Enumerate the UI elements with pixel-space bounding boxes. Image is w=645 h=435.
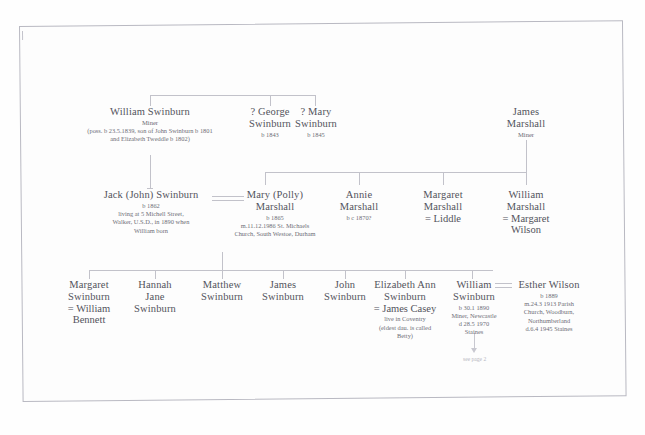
- spouse-margaret-marshall: = Liddle: [405, 213, 481, 225]
- name-hannah-jane-line1: Hannah: [122, 279, 188, 291]
- name-mary-polly-line1: Mary (Polly): [225, 189, 325, 201]
- name-margaret-marshall-line2: Marshall: [405, 201, 481, 213]
- sibling-bar-gen3: [89, 270, 493, 271]
- details-william-jr: b 30.1 1890 Miner, Newcastle d 28.5 1970…: [443, 304, 505, 337]
- node-esther-wilson: Esther Wilson b 1889 m.24.3 1913 Parish …: [505, 279, 593, 333]
- drop-mary-polly: [265, 172, 266, 185]
- paper-corner-tick: [22, 31, 23, 40]
- name-annie-line1: Annie: [326, 189, 392, 201]
- details-william-swinburn-sr: (poss. b 23.5.1839, son of John Swinburn…: [85, 127, 215, 144]
- node-hannah-jane-swinburn: Hannah Jane Swinburn: [122, 279, 188, 314]
- drop-margaret-marshall: [443, 172, 444, 185]
- node-matthew-swinburn: Matthew Swinburn: [188, 279, 256, 303]
- page2-arrow-head: [471, 348, 477, 353]
- drop-hannah-jane: [155, 270, 156, 279]
- drop-matthew: [222, 270, 223, 279]
- name-mary-polly-line2: Marshall: [225, 201, 325, 213]
- name-elizabeth-ann-line2: Swinburn: [364, 291, 446, 303]
- see-page-2-label: see page 2: [463, 356, 486, 362]
- drop-margaret-swinburn: [89, 270, 90, 279]
- drop-elizabeth-ann: [405, 270, 406, 279]
- name-elizabeth-ann-line1: Elizabeth Ann: [364, 279, 446, 291]
- occupation-james-marshall: Miner: [488, 131, 564, 138]
- drop-annie: [359, 172, 360, 185]
- node-james-swinburn: James Swinburn: [250, 279, 316, 303]
- occupation-william-swinburn-sr: Miner: [85, 119, 215, 126]
- sibling-bar-gen1-swinburn: [150, 95, 315, 96]
- node-mary-swinburn: ? Mary Swinburn b 1845: [278, 106, 354, 139]
- drop-william-jr: [472, 270, 473, 279]
- name-james-marshall-line1: James: [488, 106, 564, 118]
- name-mary-swinburn-line2: Swinburn: [278, 118, 354, 130]
- name-james-swinburn-line2: Swinburn: [250, 291, 316, 303]
- drop-william-marshall: [526, 172, 527, 185]
- name-james-swinburn-line1: James: [250, 279, 316, 291]
- name-esther-wilson: Esther Wilson: [505, 279, 593, 291]
- node-william-swinburn-sr: William Swinburn Miner (poss. b 23.5.183…: [85, 106, 215, 144]
- details-elizabeth-ann: live in Coventry (eldest dau. is called …: [364, 315, 446, 340]
- spouse-william-marshall-line2: Wilson: [488, 224, 564, 236]
- node-james-marshall: James Marshall Miner: [488, 106, 564, 138]
- line-james-marshall-down: [526, 140, 527, 172]
- line-jack-mary-to-children: [222, 252, 223, 270]
- name-william-marshall-line1: William: [488, 189, 564, 201]
- node-william-marshall: William Marshall = Margaret Wilson: [488, 189, 564, 236]
- node-mary-polly-marshall: Mary (Polly) Marshall b 1865 m.11.12.198…: [225, 189, 325, 238]
- name-william-swinburn-sr: William Swinburn: [85, 106, 215, 118]
- name-margaret-swinburn-line2: Swinburn: [54, 291, 124, 303]
- node-margaret-marshall: Margaret Marshall = Liddle: [405, 189, 481, 224]
- name-margaret-marshall-line1: Margaret: [405, 189, 481, 201]
- name-hannah-jane-line2: Jane: [122, 291, 188, 303]
- line-william-sr-to-jack: [150, 155, 151, 188]
- spouse-margaret-swinburn-line2: Bennett: [54, 314, 124, 326]
- name-william-marshall-line2: Marshall: [488, 201, 564, 213]
- spouse-margaret-swinburn-line1: = William: [54, 303, 124, 315]
- details-mary-polly: b 1865 m.11.12.1986 St. Michaels Church,…: [211, 214, 339, 239]
- drop-mary: [315, 95, 316, 106]
- node-william-swinburn-jr: William Swinburn b 30.1 1890 Miner, Newc…: [443, 279, 505, 337]
- name-james-marshall-line2: Marshall: [488, 118, 564, 130]
- name-william-jr-line1: William: [443, 279, 505, 291]
- drop-james-swinburn: [283, 270, 284, 279]
- name-hannah-jane-line3: Swinburn: [122, 303, 188, 315]
- node-elizabeth-ann-swinburn: Elizabeth Ann Swinburn = James Casey liv…: [364, 279, 446, 340]
- details-mary-swinburn: b 1845: [278, 131, 354, 139]
- name-jack-john-swinburn: Jack (John) Swinburn: [76, 189, 226, 201]
- node-margaret-swinburn: Margaret Swinburn = William Bennett: [54, 279, 124, 326]
- sibling-bar-marshall-children: [265, 172, 527, 173]
- details-annie: b c 1870?: [326, 214, 392, 222]
- spouse-elizabeth-ann: = James Casey: [364, 303, 446, 315]
- details-esther-wilson: b 1889 m.24.3 1913 Parish Church, Woodbu…: [505, 292, 593, 334]
- name-mary-swinburn-line1: ? Mary: [278, 106, 354, 118]
- name-matthew-line1: Matthew: [188, 279, 256, 291]
- spouse-william-marshall-line1: = Margaret: [488, 213, 564, 225]
- node-annie-marshall: Annie Marshall b c 1870?: [326, 189, 392, 222]
- name-william-jr-line2: Swinburn: [443, 291, 505, 303]
- drop-william-sr: [150, 95, 151, 106]
- name-annie-line2: Marshall: [326, 201, 392, 213]
- details-jack-john-swinburn: b 1862 living at 5 Michell Street, Walke…: [76, 202, 226, 235]
- genealogy-chart-page: see page 2 William Swinburn Miner (poss.…: [0, 0, 645, 435]
- name-matthew-line2: Swinburn: [188, 291, 256, 303]
- drop-john-swinburn: [345, 270, 346, 279]
- drop-george: [270, 95, 271, 106]
- name-margaret-swinburn-line1: Margaret: [54, 279, 124, 291]
- node-jack-john-swinburn: Jack (John) Swinburn b 1862 living at 5 …: [76, 189, 226, 235]
